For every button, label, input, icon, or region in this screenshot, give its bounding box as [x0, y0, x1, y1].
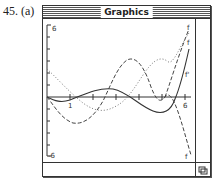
- resize-icon: [196, 164, 210, 177]
- y-ticks: [47, 25, 51, 156]
- vertical-scrollbar[interactable]: [195, 19, 210, 162]
- plot-area: 6 -6 1 6 f f f' f: [43, 19, 195, 162]
- label-f-second: f: [187, 39, 190, 47]
- graphics-window: Graphics 6 -6 1 6: [42, 5, 211, 177]
- exercise-label: 45. (a): [3, 4, 34, 19]
- label-f-top: f: [187, 24, 190, 32]
- window-title: Graphics: [100, 6, 153, 18]
- y-min-label: -6: [48, 152, 56, 160]
- label-f-prime: f': [185, 71, 189, 79]
- x-tick-1-label: 1: [68, 102, 72, 110]
- title-bar[interactable]: Graphics: [43, 6, 210, 19]
- graph: 6 -6 1 6 f f f' f: [43, 19, 195, 162]
- horizontal-scrollbar[interactable]: [43, 162, 195, 176]
- curve-f-double-prime: [47, 33, 189, 110]
- y-max-label: 6: [52, 25, 57, 33]
- resize-grow-box[interactable]: [195, 162, 210, 176]
- label-f-bottom: f: [185, 153, 188, 161]
- x-tick-6-label: 6: [183, 102, 188, 110]
